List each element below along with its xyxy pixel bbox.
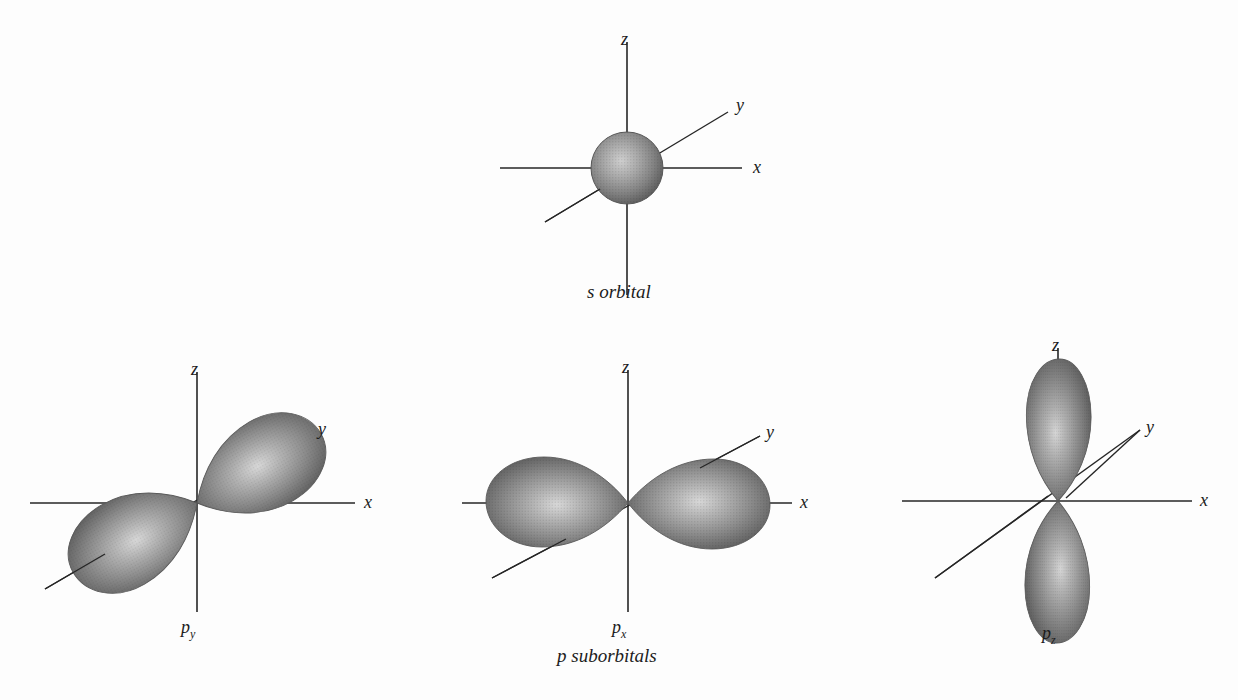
s-orbital-figure <box>500 42 742 295</box>
s-orbital-caption: s orbital <box>587 281 651 303</box>
pz-orbital-lobe-negative <box>1025 501 1090 643</box>
py-orbital-label-subscript: y <box>190 627 195 641</box>
orbital-diagram-page: z x y s orbital z x y py z x y px z x y … <box>0 0 1238 700</box>
px-orbital-lobe-negative <box>486 457 628 547</box>
px-orbital-label-base: p <box>612 617 621 637</box>
py-orbital-label: py <box>181 618 195 640</box>
px-orbital-y-label: y <box>766 423 774 441</box>
py-orbital-lobe-positive <box>175 394 343 543</box>
px-orbital-x-label: x <box>800 493 808 511</box>
s-orbital-z-label: z <box>621 30 628 48</box>
s-orbital-sphere <box>591 132 663 204</box>
px-orbital-label: px <box>612 618 626 640</box>
px-orbital-figure <box>462 370 792 612</box>
pz-orbital-figure <box>902 348 1192 643</box>
s-orbital-y-axis-front <box>545 189 600 222</box>
py-orbital-figure <box>30 372 355 612</box>
s-orbital-y-label: y <box>736 96 744 114</box>
py-orbital-x-label: x <box>364 493 372 511</box>
px-orbital-label-subscript: x <box>621 627 626 641</box>
s-orbital-x-label: x <box>753 158 761 176</box>
pz-orbital-lobe-positive <box>1026 359 1091 501</box>
pz-orbital-label: pz <box>1042 624 1056 646</box>
py-orbital-z-label: z <box>191 360 198 378</box>
pz-orbital-z-label: z <box>1052 336 1059 354</box>
p-suborbitals-caption: p suborbitals <box>557 645 657 667</box>
px-orbital-z-label: z <box>622 358 629 376</box>
pz-orbital-y-label: y <box>1146 418 1154 436</box>
py-orbital-lobe-negative <box>51 463 219 612</box>
py-orbital-label-base: p <box>181 617 190 637</box>
py-orbital-y-label: y <box>318 420 326 438</box>
pz-orbital-label-subscript: z <box>1051 633 1056 647</box>
pz-orbital-x-label: x <box>1200 491 1208 509</box>
pz-orbital-label-base: p <box>1042 623 1051 643</box>
px-orbital-lobe-positive <box>628 459 770 549</box>
